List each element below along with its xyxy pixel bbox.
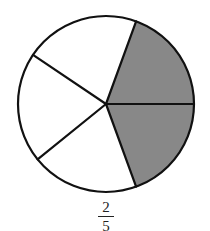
- shaded-sector-upper: [106, 21, 194, 104]
- fraction-denominator: 5: [94, 219, 118, 231]
- divider-141: [38, 104, 106, 159]
- shaded-sector-lower: [106, 104, 194, 187]
- fraction-numerator: 2: [94, 200, 118, 215]
- fraction-bar: [98, 216, 114, 217]
- fraction-label: 2 5: [94, 200, 118, 231]
- divider-214: [33, 55, 106, 104]
- fraction-circle: [0, 0, 210, 200]
